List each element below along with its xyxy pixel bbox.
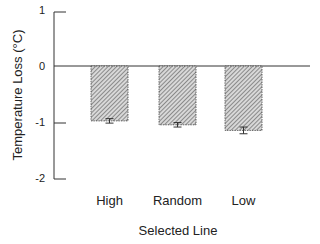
y-tick-label: 1 [39,4,45,16]
y-tick-labels: 10-1-2 [35,4,45,184]
bar [225,66,262,130]
bar-chart: 10-1-2 HighRandomLow Temperature Loss (°… [0,0,320,244]
bar [91,66,128,121]
y-tick-label: -2 [35,172,45,184]
x-axis-label: Selected Line [139,223,218,238]
category-label: Random [153,193,202,208]
y-tick-label: 0 [39,60,45,72]
bars [91,66,262,134]
y-tick-label: -1 [35,116,45,128]
bar [159,66,196,125]
category-label: High [96,193,123,208]
y-axis-label: Temperature Loss (°C) [10,30,25,161]
category-labels: HighRandomLow [96,193,256,208]
category-label: Low [232,193,256,208]
